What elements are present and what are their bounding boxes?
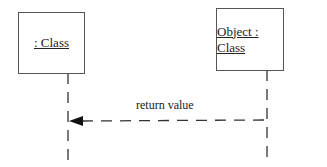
arrowhead-icon [69, 116, 83, 126]
object-class-lifeline-label: Object : Class [217, 24, 283, 56]
class-lifeline-label: : Class [34, 35, 69, 51]
object-class-lifeline-box: Object : Class [216, 8, 284, 71]
class-lifeline-box: : Class [18, 12, 85, 74]
return-message-line [80, 120, 264, 121]
return-message-label: return value [136, 98, 194, 113]
